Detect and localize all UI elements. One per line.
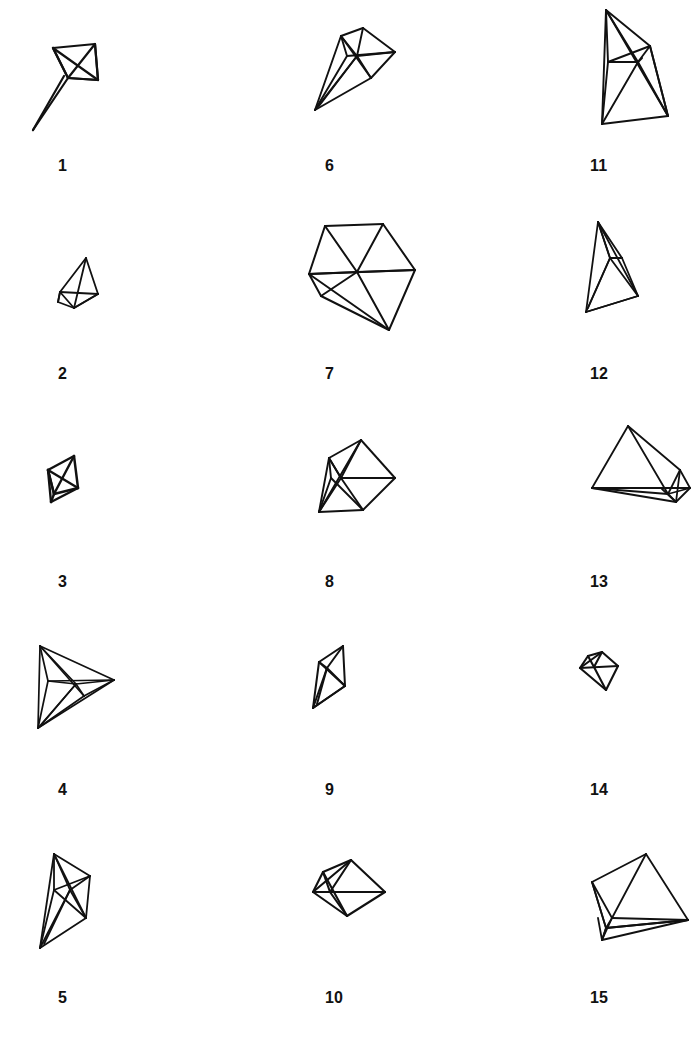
edge: [319, 510, 363, 512]
edge: [48, 470, 51, 502]
edge: [95, 44, 98, 80]
edge: [594, 667, 606, 690]
edge: [319, 646, 343, 662]
edge: [606, 10, 608, 62]
edge: [40, 646, 114, 680]
edge: [321, 272, 357, 296]
figure-item-2: 2: [18, 208, 248, 418]
polyhedron-13: [550, 416, 695, 576]
edge: [389, 270, 415, 330]
edge: [598, 918, 602, 940]
edge: [347, 892, 385, 916]
edge: [327, 646, 343, 668]
edge: [309, 274, 389, 330]
edge: [383, 224, 415, 270]
edge: [598, 222, 638, 296]
edge: [602, 920, 688, 940]
figure-item-12: 12: [550, 208, 695, 418]
figure-item-label: 9: [325, 782, 334, 798]
edge: [606, 920, 688, 928]
figure-item-label: 4: [58, 782, 67, 798]
polyhedron-6: [285, 0, 515, 160]
edge: [325, 224, 383, 226]
polyhedron-3: [18, 416, 248, 576]
figure-item-label: 11: [590, 158, 607, 174]
polyhedron-2: [18, 208, 248, 368]
edge: [53, 48, 98, 80]
figure-item-1: 1: [18, 0, 248, 210]
polyhedron-8: [285, 416, 515, 576]
edge: [357, 270, 415, 272]
figure-item-label: 14: [590, 782, 608, 798]
figure-item-label: 10: [325, 990, 343, 1006]
edge: [343, 646, 345, 686]
edge: [325, 226, 357, 272]
edge: [361, 440, 395, 478]
edge: [363, 28, 395, 52]
figure-item-10: 10: [285, 832, 515, 1042]
figure-item-label: 12: [590, 366, 608, 382]
edge: [33, 76, 64, 130]
edge: [646, 854, 688, 920]
edge: [586, 296, 638, 312]
figure-item-11: 11: [550, 0, 695, 210]
edge: [48, 680, 114, 681]
figure-item-label: 1: [58, 158, 67, 174]
figure-item-label: 8: [325, 574, 334, 590]
edge: [680, 470, 690, 488]
edge: [309, 272, 357, 274]
figure-item-3: 3: [18, 416, 248, 626]
figure-item-14: 14: [550, 624, 695, 834]
edge: [86, 258, 98, 294]
polyhedron-14: [550, 624, 695, 784]
edge: [38, 646, 40, 728]
polyhedron-10: [285, 832, 515, 992]
edge: [42, 684, 76, 724]
edge: [53, 44, 95, 48]
edge: [309, 226, 325, 274]
edge: [357, 28, 363, 56]
figure-item-label: 7: [325, 366, 334, 382]
edge: [602, 652, 618, 666]
edge: [650, 46, 668, 116]
edge: [580, 666, 618, 668]
polyhedron-1: [18, 0, 248, 160]
edge: [351, 860, 385, 892]
figure-item-4: 4: [18, 624, 248, 834]
edge: [606, 10, 650, 46]
polyhedron-11: [550, 0, 695, 160]
edge: [363, 478, 395, 510]
edge: [313, 892, 347, 916]
figure-item-label: 6: [325, 158, 334, 174]
polyhedron-12: [550, 208, 695, 368]
figure-item-label: 13: [590, 574, 608, 590]
edge: [86, 876, 90, 918]
polyhedron-9: [285, 624, 515, 784]
figure-item-9: 9: [285, 624, 515, 834]
edge: [628, 426, 668, 494]
edge: [612, 918, 688, 920]
figure-item-label: 5: [58, 990, 67, 1006]
figure-item-7: 7: [285, 208, 515, 418]
polyhedron-5: [18, 832, 248, 992]
edge: [606, 666, 618, 690]
edge: [628, 426, 680, 470]
edge: [68, 78, 98, 80]
edge: [371, 52, 395, 78]
edge: [323, 872, 347, 916]
figure-item-13: 13: [550, 416, 695, 626]
polyhedron-7: [285, 208, 515, 368]
polyhedron-15: [550, 832, 695, 992]
edge: [74, 456, 78, 488]
edge: [602, 116, 668, 124]
polyhedron-4: [18, 624, 248, 784]
edge: [341, 28, 363, 36]
figure-item-8: 8: [285, 416, 515, 626]
edge: [592, 426, 628, 488]
edge: [357, 224, 383, 272]
figure-item-label: 3: [58, 574, 67, 590]
figure-item-5: 5: [18, 832, 248, 1042]
edge: [60, 292, 98, 294]
edge: [58, 292, 60, 302]
edge: [580, 668, 606, 690]
